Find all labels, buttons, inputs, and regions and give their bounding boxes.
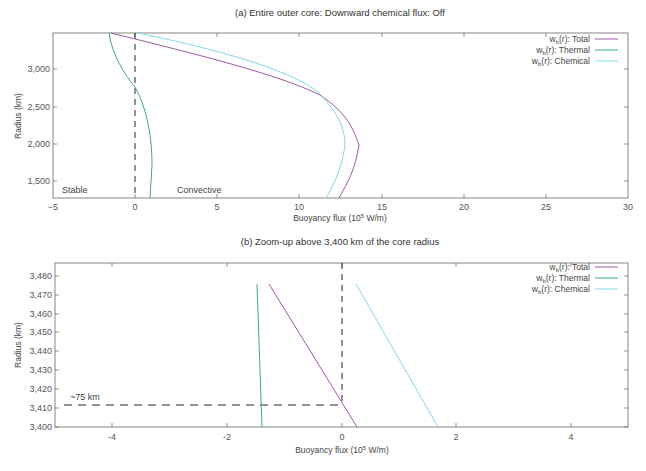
panel-a-xlabel: Buoyancy flux (105 W/m) (293, 213, 387, 223)
xtick-label: −5 (48, 202, 58, 212)
legend-total: wb(r): Total (548, 262, 590, 273)
xtick-label: 2 (453, 432, 458, 442)
legend-thermal: wb(r): Thermal (535, 273, 590, 284)
depth-label: ~75 km (70, 392, 100, 402)
ytick-label: 3,440 (29, 346, 52, 356)
ytick-label: 3,000 (27, 64, 50, 74)
ytick-label: 3,400 (29, 422, 52, 432)
panel-a-ylabel: Radius (km) (13, 93, 23, 139)
panel-b-ylabel: Radius (km) (13, 322, 23, 368)
ytick-label: 3,460 (29, 309, 52, 319)
legend-thermal: wb(r): Thermal (535, 45, 590, 56)
xtick-label: 5 (214, 202, 219, 212)
ytick-label: 3,410 (29, 403, 52, 413)
ytick-label: 3,450 (29, 327, 52, 337)
xtick-label: -2 (223, 432, 231, 442)
convective-label: Convective (177, 185, 222, 195)
panel-a: (a) Entire outer core: Downward chemical… (13, 7, 633, 223)
series-chemical (356, 284, 438, 427)
ytick-label: 3,480 (29, 271, 52, 281)
stable-label: Stable (62, 185, 88, 195)
ytick-label: 3,430 (29, 365, 52, 375)
legend-chemical: wb(r): Chemical (531, 284, 590, 295)
series-thermal (257, 284, 262, 427)
panel-b-xlabel: Buoyancy flux (105 W/m) (295, 445, 389, 455)
xtick-label: 25 (541, 202, 551, 212)
series-total (269, 284, 357, 427)
ytick-label: 3,470 (29, 290, 52, 300)
series-total (111, 33, 359, 198)
legend-total: wb(r): Total (548, 34, 590, 45)
ytick-label: 3,420 (29, 384, 52, 394)
xtick-label: -4 (108, 432, 116, 442)
panel-b-ytick-labels: 3,400 3,410 3,420 3,430 3,440 3,450 3,46… (29, 271, 52, 432)
xtick-label: 0 (339, 432, 344, 442)
panel-a-legend: wb(r): Total wb(r): Thermal wb(r): Chemi… (531, 34, 618, 67)
panel-a-title: (a) Entire outer core: Downward chemical… (235, 7, 445, 18)
figure: (a) Entire outer core: Downward chemical… (0, 0, 646, 471)
legend-chemical: wb(r): Chemical (531, 56, 590, 67)
xtick-label: 20 (459, 202, 469, 212)
series-thermal (109, 33, 152, 198)
ytick-label: 1,500 (27, 176, 50, 186)
xtick-label: 10 (294, 202, 304, 212)
ytick-label: 2,500 (27, 102, 50, 112)
panel-b-xtick-labels: -4 -2 0 2 4 (108, 432, 574, 442)
panel-b-title: (b) Zoom-up above 3,400 km of the core r… (241, 236, 440, 247)
ytick-label: 2,000 (27, 139, 50, 149)
panel-a-ytick-labels: 1,500 2,000 2,500 3,000 (27, 64, 50, 186)
panel-a-xtick-labels: −5 0 5 10 15 20 25 30 (48, 202, 633, 212)
panel-b: (b) Zoom-up above 3,400 km of the core r… (13, 236, 628, 455)
series-chemical (138, 33, 345, 198)
panel-b-legend: wb(r): Total wb(r): Thermal wb(r): Chemi… (531, 262, 618, 295)
xtick-label: 15 (377, 202, 387, 212)
xtick-label: 0 (132, 202, 137, 212)
xtick-label: 30 (623, 202, 633, 212)
xtick-label: 4 (568, 432, 573, 442)
